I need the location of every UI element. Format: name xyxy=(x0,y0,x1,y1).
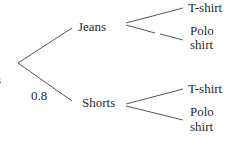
branch-shorts-polo xyxy=(126,106,183,120)
branch-jeans-polo-b xyxy=(160,34,183,40)
branch-root-jeans xyxy=(18,28,72,63)
node-jeans-polo-line2: shirt xyxy=(190,38,213,51)
root-label-fragment: s xyxy=(0,73,1,86)
node-shorts-polo-line2: shirt xyxy=(190,120,213,133)
branch-shorts-tshirt xyxy=(126,89,183,104)
branch-jeans-tshirt xyxy=(126,8,183,23)
node-shorts-tshirt: T-shirt xyxy=(188,82,222,95)
prob-shorts: 0.8 xyxy=(31,89,47,102)
node-jeans-tshirt: T-shirt xyxy=(188,1,222,14)
node-jeans: Jeans xyxy=(78,20,106,33)
node-shorts: Shorts xyxy=(82,96,115,109)
node-shorts-polo-line1: Polo xyxy=(190,105,214,118)
node-jeans-polo-line1: Polo xyxy=(190,24,214,37)
branch-jeans-polo-a xyxy=(126,25,155,33)
